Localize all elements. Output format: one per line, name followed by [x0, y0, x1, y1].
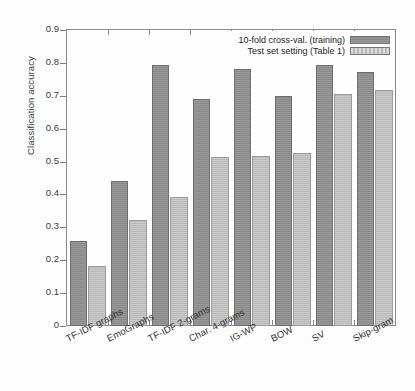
y-axis-tick-label: 0.6 — [46, 122, 59, 133]
y-axis-tick-label: 0.2 — [46, 253, 59, 264]
y-axis-tick — [60, 30, 66, 31]
x-axis-tick-label: SV — [310, 328, 326, 344]
y-axis-tick-label: 0 — [54, 319, 59, 330]
bar-chart: Classification accuracy 00.10.20.30.40.5… — [0, 0, 415, 391]
bars-layer — [67, 30, 395, 326]
bar — [129, 220, 147, 326]
bar — [211, 157, 229, 326]
bar — [234, 69, 252, 326]
bar — [252, 156, 270, 326]
bar — [357, 72, 375, 326]
bar — [170, 197, 188, 326]
y-axis-tick — [60, 194, 66, 195]
bar — [275, 96, 293, 326]
bar-group — [108, 30, 149, 326]
y-axis-tick — [60, 227, 66, 228]
y-axis-tick-label: 0.5 — [46, 155, 59, 166]
legend-item: Test set setting (Table 1) — [220, 45, 390, 56]
bar — [111, 181, 129, 326]
bar-group — [272, 30, 313, 326]
y-axis-tick — [60, 162, 66, 163]
bar-group — [190, 30, 231, 326]
y-axis-tick — [60, 96, 66, 97]
legend-swatch-series-2 — [350, 47, 390, 55]
bar-group — [67, 30, 108, 326]
bar — [152, 65, 170, 326]
legend: 10-fold cross-val. (training) Test set s… — [216, 31, 394, 60]
y-axis-tick — [60, 260, 66, 261]
legend-label: Test set setting (Table 1) — [247, 46, 345, 56]
y-axis-tick-label: 0.7 — [46, 89, 59, 100]
legend-item: 10-fold cross-val. (training) — [220, 34, 390, 45]
y-axis-tick-label: 0.1 — [46, 286, 59, 297]
bar-group — [354, 30, 395, 326]
bar — [193, 99, 211, 326]
y-axis-title: Classification accuracy — [25, 16, 36, 196]
y-axis-tick — [60, 129, 66, 130]
y-axis-tick-label: 0.3 — [46, 220, 59, 231]
y-axis-tick-label: 0.8 — [46, 56, 59, 67]
bar — [293, 153, 311, 326]
bar — [334, 94, 352, 326]
bar-group — [149, 30, 190, 326]
bar — [375, 90, 393, 326]
y-axis-tick — [60, 63, 66, 64]
y-axis-tick — [60, 326, 66, 327]
bar-group — [231, 30, 272, 326]
x-axis-tick-label: BOW — [269, 324, 294, 344]
y-axis-tick-label: 0.4 — [46, 187, 59, 198]
bar — [70, 241, 88, 326]
bar-group — [313, 30, 354, 326]
y-axis-tick-label: 0.9 — [46, 23, 59, 34]
y-axis-tick — [60, 293, 66, 294]
bar — [316, 65, 334, 326]
legend-swatch-series-1 — [350, 36, 390, 44]
legend-label: 10-fold cross-val. (training) — [238, 35, 345, 45]
